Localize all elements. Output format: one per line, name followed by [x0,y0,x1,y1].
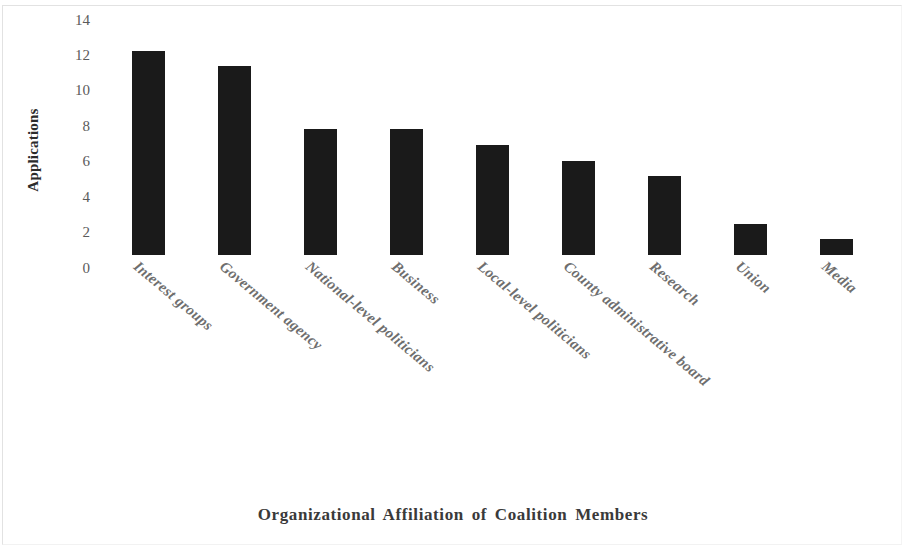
x-tick-label: Research [646,258,703,310]
x-tick-label: County administrative board [560,258,712,390]
bar [820,239,853,255]
x-axis-title: Organizational Affiliation of Coalition … [0,505,906,525]
bar [476,145,509,255]
y-tick-label: 14 [62,13,90,28]
bar [648,176,681,255]
y-axis-tick-labels: 14 12 10 8 6 4 2 0 [62,20,90,270]
x-tick-label: Interest groups [130,258,216,334]
bar [218,66,251,255]
bar [562,161,595,255]
bar [132,51,165,255]
bar [390,129,423,255]
y-tick-label: 12 [62,48,90,63]
y-axis-title: Applications [25,90,45,210]
x-tick-label: Union [732,258,774,297]
bar [304,129,337,255]
y-tick-label: 10 [62,83,90,98]
chart-figure: Applications 14 12 10 8 6 4 2 0 Interest… [0,0,906,552]
y-tick-label: 0 [62,261,90,276]
plot-area [100,35,880,255]
bar [734,224,767,255]
y-tick-label: 6 [62,154,90,169]
y-tick-label: 2 [62,225,90,240]
y-tick-label: 8 [62,119,90,134]
x-axis-tick-labels: Interest groupsGovernment agencyNational… [100,258,890,468]
x-tick-label: Business [388,258,443,308]
y-tick-label: 4 [62,190,90,205]
x-tick-label: Media [818,258,860,297]
